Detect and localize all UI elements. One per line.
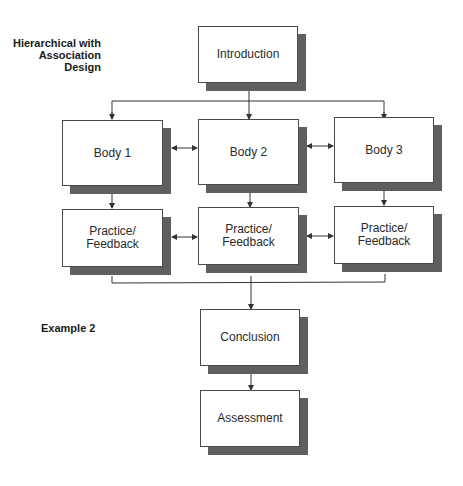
node-practice3-label: Practice/Feedback bbox=[334, 206, 434, 264]
node-body3-label: Body 3 bbox=[334, 117, 434, 183]
practice3-line-1: Practice/ bbox=[361, 221, 408, 235]
node-assessment-label: Assessment bbox=[200, 390, 300, 447]
node-body2-label: Body 2 bbox=[198, 119, 299, 185]
node-practice2-label: Practice/Feedback bbox=[198, 207, 299, 265]
node-conclusion: Conclusion bbox=[200, 309, 300, 366]
node-practice1-label: Practice/Feedback bbox=[62, 209, 163, 267]
node-body1: Body 1 bbox=[62, 120, 163, 186]
node-assessment: Assessment bbox=[200, 390, 300, 447]
node-practice2: Practice/Feedback bbox=[198, 207, 299, 265]
node-introduction-label: Introduction bbox=[198, 26, 298, 83]
node-practice1: Practice/Feedback bbox=[62, 209, 163, 267]
practice3-line-2: Feedback bbox=[358, 234, 411, 248]
practice1-line-1: Practice/ bbox=[89, 224, 136, 238]
practice2-line-2: Feedback bbox=[222, 235, 275, 249]
practice1-line-2: Feedback bbox=[86, 237, 139, 251]
node-body3: Body 3 bbox=[334, 117, 434, 183]
node-body2: Body 2 bbox=[198, 119, 299, 185]
practice2-line-1: Practice/ bbox=[225, 222, 272, 236]
node-conclusion-label: Conclusion bbox=[200, 309, 300, 366]
node-body1-label: Body 1 bbox=[62, 120, 163, 186]
edge-practices-merge bbox=[112, 274, 385, 283]
node-introduction: Introduction bbox=[198, 26, 298, 83]
node-practice3: Practice/Feedback bbox=[334, 206, 434, 264]
